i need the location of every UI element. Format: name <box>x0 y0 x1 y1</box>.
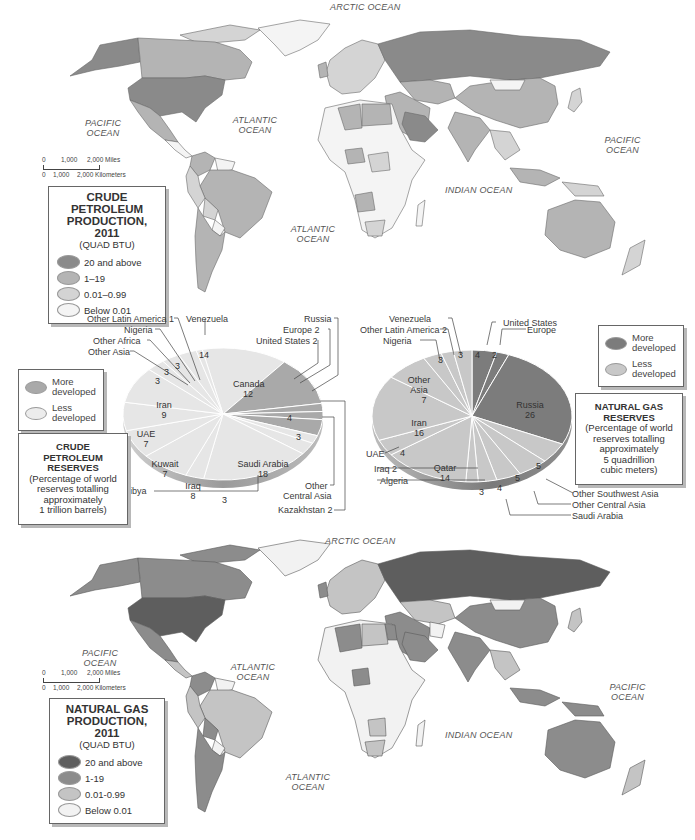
legend-swatch-icon <box>57 271 80 285</box>
scale-km-0: 0 <box>42 684 46 691</box>
legend-label: 0.01-0.99 <box>85 789 125 800</box>
legend-swatch-icon <box>57 287 80 301</box>
oil-value-uae: 7 <box>134 439 158 449</box>
gas-value-iran-name: Iran <box>404 418 434 428</box>
scale-miles-0: 0 <box>42 156 46 163</box>
gas-value-venezuela: 3 <box>458 350 463 360</box>
gas-label-other-southwest-asia: Other Southwest Asia <box>572 489 659 499</box>
gas-label-algeria: Algeria <box>380 476 408 486</box>
gas-value-other-asia-1: Other <box>404 375 434 385</box>
scale-miles-2000: 2,000 Miles <box>87 156 120 163</box>
oil-value-other-asia: 3 <box>155 376 160 386</box>
gas-label-iraq: Iraq 2 <box>374 464 397 474</box>
oil-value-other-central-asia: 3 <box>296 432 301 442</box>
oil-value-russia: 4 <box>287 413 292 423</box>
oil-label-russia: Russia <box>304 314 332 324</box>
scale-miles-0: 0 <box>42 669 46 676</box>
less-developed-swatch-icon <box>25 407 47 420</box>
gas-value-qatar: 14 <box>430 473 460 483</box>
crude-petroleum-production-map: ARCTIC OCEAN PACIFIC OCEAN ATLANTIC OCEA… <box>0 0 695 305</box>
desc-line: reserves totalling <box>24 484 122 495</box>
gas-value-europe: 2 <box>492 350 497 360</box>
oil-value-kuwait: 7 <box>148 469 182 479</box>
gas-value-uae: 4 <box>400 448 405 458</box>
desc-line: (Percentage of world <box>581 423 677 434</box>
gas-reserves-description: NATURAL GAS RESERVES (Percentage of worl… <box>575 393 683 485</box>
oil-production-legend: CRUDE PETROLEUM PRODUCTION, 2011 (QUAD B… <box>48 186 166 324</box>
less-developed-swatch-icon <box>605 363 627 376</box>
reserves-pie-panel: Other Latin America 1 Nigeria Other Afri… <box>0 305 695 530</box>
scale-km-0: 0 <box>42 171 46 178</box>
gas-value-russia-name: Russia <box>512 400 548 410</box>
legend-label: 20 and above <box>84 257 142 268</box>
scale-miles-2000: 2,000 Miles <box>87 669 120 676</box>
more-developed-swatch-icon <box>605 337 627 350</box>
gas-label-venezuela: Venezuela <box>389 314 431 324</box>
ocean-label-pacific-east: PACIFIC OCEAN <box>605 682 650 702</box>
desc-title: CRUDE <box>24 442 122 453</box>
desc-line: approximately <box>581 444 677 455</box>
dev-label: developed <box>632 342 676 353</box>
oil-label-united-states: United States 2 <box>256 336 318 346</box>
oil-reserves-description: CRUDE PETROLEUM RESERVES (Percentage of … <box>18 433 128 525</box>
ocean-label-indian: INDIAN OCEAN <box>445 730 512 740</box>
legend-subtitle: (QUAD BTU) <box>58 739 156 750</box>
scale-bar-line <box>43 678 100 683</box>
ocean-label-indian: INDIAN OCEAN <box>445 185 512 195</box>
desc-line: cubic meters) <box>581 465 677 476</box>
scale-miles-1000: 1,000 <box>61 156 77 163</box>
scale-km-2000: 2,000 Kilometers <box>77 684 126 691</box>
legend-title-line2: PRODUCTION, 2011 <box>58 715 156 739</box>
gas-label-nigeria: Nigeria <box>383 336 412 346</box>
ocean-label-atlantic-south: ATLANTIC OCEAN <box>288 224 338 244</box>
desc-line: 1 trillion barrels) <box>24 505 122 516</box>
scale-miles-1000: 1,000 <box>61 669 77 676</box>
gas-development-legend: Moredeveloped Lessdeveloped <box>598 325 684 387</box>
oil-label-other-africa: Other Africa <box>93 336 141 346</box>
oil-development-legend: Moredeveloped Lessdeveloped <box>18 369 104 431</box>
legend-label: 20 and above <box>85 757 143 768</box>
scale-km-1000: 1,000 <box>53 684 69 691</box>
ocean-label-pacific-west: PACIFIC OCEAN <box>75 648 125 668</box>
legend-label: 1–19 <box>84 273 105 284</box>
oil-value-iran: 9 <box>152 410 176 420</box>
scale-km-1000: 1,000 <box>53 171 69 178</box>
oil-label-other-central-asia-1: Other <box>305 481 328 491</box>
legend-item-20-above: 20 and above <box>57 254 157 270</box>
gas-value-algeria: 3 <box>479 487 484 497</box>
oil-value-saudi: 18 <box>233 469 293 479</box>
gas-label-europe: Europe <box>527 325 556 335</box>
legend-item-0-01-0-99: 0.01–0.99 <box>57 286 157 302</box>
dev-legend-more: Moredeveloped <box>605 330 677 356</box>
ocean-label-pacific-east: PACIFIC OCEAN <box>600 135 645 155</box>
dev-legend-less: Lessdeveloped <box>605 356 677 382</box>
map-scale-bar: 0 1,000 2,000 Miles 0 1,000 2,000 Kilome… <box>43 156 138 179</box>
dev-label: developed <box>632 368 676 379</box>
oil-value-iraq: 8 <box>183 491 203 501</box>
oil-value-saudi-name: Saudi Arabia <box>233 459 293 469</box>
ocean-label-atlantic-north: ATLANTIC OCEAN <box>228 662 278 682</box>
natural-gas-production-map: ARCTIC OCEAN PACIFIC OCEAN ATLANTIC OCEA… <box>0 530 695 840</box>
oil-label-europe: Europe 2 <box>283 325 320 335</box>
legend-swatch-icon <box>58 787 81 801</box>
oil-value-iraq-name: Iraq <box>183 481 203 491</box>
oil-value-libya: 3 <box>222 495 227 505</box>
gas-value-qatar-name: Qatar <box>430 463 460 473</box>
scale-km-2000: 2,000 Kilometers <box>77 171 126 178</box>
oil-value-canada: 12 <box>233 389 263 399</box>
ocean-label-arctic: ARCTIC OCEAN <box>325 536 395 546</box>
scale-bar-line <box>43 165 100 170</box>
oil-value-venezuela: 14 <box>199 350 209 360</box>
gas-value-other-southwest-asia: 5 <box>536 461 541 471</box>
oil-label-other-latin-america: Other Latin America 1 <box>87 314 174 324</box>
oil-value-kuwait-name: Kuwait <box>148 459 182 469</box>
gas-label-other-central-asia: Other Central Asia <box>572 500 646 510</box>
oil-label-nigeria: Nigeria <box>124 325 153 335</box>
gas-value-iran: 16 <box>404 428 434 438</box>
ocean-label-pacific-west: PACIFIC OCEAN <box>78 118 128 138</box>
legend-item-0-01-0-99: 0.01-0.99 <box>58 786 156 802</box>
oil-value-canada-name: Canada <box>233 379 263 389</box>
oil-label-other-central-asia-2: Central Asia <box>283 491 332 501</box>
legend-swatch-icon <box>58 803 81 817</box>
oil-label-libya: Libya <box>125 486 147 496</box>
